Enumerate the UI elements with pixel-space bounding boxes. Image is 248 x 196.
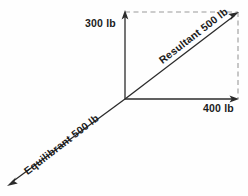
vertical-component-label: 300 lb [85, 17, 116, 29]
force-vector-diagram: 300 lb 400 lb Resultant 500 lb Equilibra… [0, 0, 248, 196]
horizontal-component-label: 400 lb [203, 102, 234, 114]
resultant-vector [125, 16, 235, 100]
